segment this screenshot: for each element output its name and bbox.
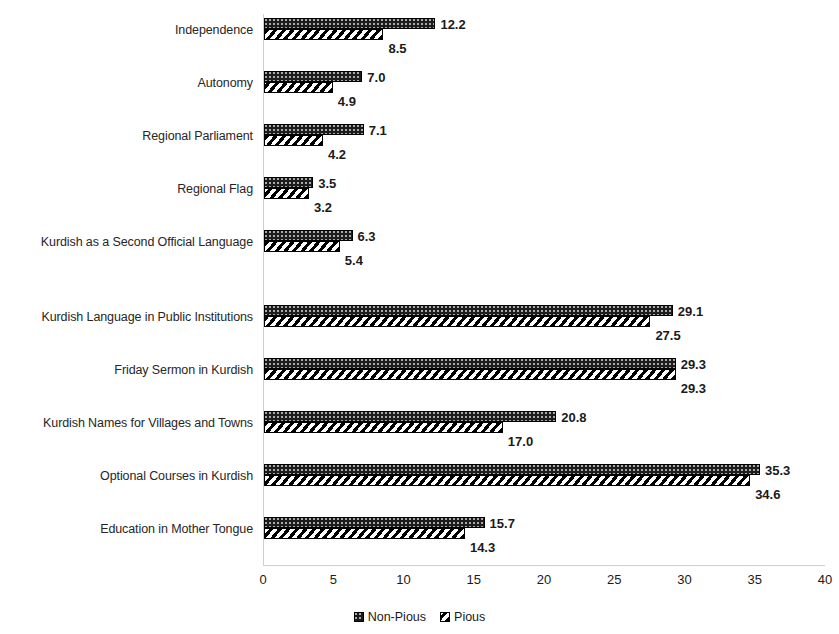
bar-group: 15.714.3	[264, 517, 485, 539]
bar-group: 7.04.9	[264, 71, 362, 93]
bar-value-label: 35.3	[765, 464, 790, 477]
bar-pious: 27.5	[264, 316, 650, 327]
x-tick-label: 15	[454, 572, 494, 587]
bar-row: Kurdish Names for Villages and Towns20.8…	[0, 411, 839, 435]
bar-pious: 3.2	[264, 188, 309, 199]
bar-non-pious: 7.0	[264, 71, 362, 82]
category-label: Autonomy	[3, 71, 253, 95]
bar-value-label: 3.5	[318, 177, 336, 190]
category-label: Optional Courses in Kurdish	[3, 464, 253, 488]
bar-group: 29.329.3	[264, 358, 676, 380]
category-label: Independence	[3, 18, 253, 42]
bar-group: 7.14.2	[264, 124, 364, 146]
bar-non-pious: 15.7	[264, 517, 485, 528]
bar-group: 3.53.2	[264, 177, 313, 199]
bar-pious: 8.5	[264, 29, 383, 40]
bar-group: 12.28.5	[264, 18, 435, 40]
diagonal-hatch-swatch	[440, 612, 450, 622]
bar-row: Regional Flag3.53.2	[0, 177, 839, 201]
bar-value-label: 29.3	[681, 382, 706, 395]
category-label: Kurdish as a Second Official Language	[3, 230, 253, 254]
bar-non-pious: 29.1	[264, 305, 673, 316]
bar-row: Education in Mother Tongue15.714.3	[0, 517, 839, 541]
legend-item[interactable]: Pious	[440, 610, 485, 624]
bar-value-label: 14.3	[470, 541, 495, 554]
bar-value-label: 12.2	[440, 18, 465, 31]
category-label: Regional Parliament	[3, 124, 253, 148]
bar-non-pious: 35.3	[264, 464, 760, 475]
bar-value-label: 29.3	[681, 358, 706, 371]
bar-value-label: 3.2	[314, 201, 332, 214]
bar-pious: 4.2	[264, 135, 323, 146]
plot-area: Independence12.28.5Autonomy7.04.9Regiona…	[0, 0, 839, 634]
bar-pious: 5.4	[264, 241, 340, 252]
bar-pious: 14.3	[264, 528, 465, 539]
bar-value-label: 7.0	[367, 71, 385, 84]
bar-value-label: 17.0	[508, 435, 533, 448]
bar-pious: 34.6	[264, 475, 750, 486]
bar-non-pious: 6.3	[264, 230, 353, 241]
x-tick-label: 0	[243, 572, 283, 587]
bar-non-pious: 29.3	[264, 358, 676, 369]
bar-value-label: 7.1	[369, 124, 387, 137]
legend-item[interactable]: Non-Pious	[354, 610, 426, 624]
bar-group: 35.334.6	[264, 464, 760, 486]
x-tick-label: 30	[665, 572, 705, 587]
x-axis-line	[263, 565, 825, 566]
category-label: Kurdish Names for Villages and Towns	[3, 411, 253, 435]
category-label: Friday Sermon in Kurdish	[3, 358, 253, 382]
category-label: Kurdish Language in Public Institutions	[3, 305, 253, 329]
bar-value-label: 4.9	[338, 95, 356, 108]
x-tick-label: 25	[594, 572, 634, 587]
bar-value-label: 5.4	[345, 254, 363, 267]
bar-value-label: 8.5	[388, 42, 406, 55]
bar-row: Regional Parliament7.14.2	[0, 124, 839, 148]
bar-row: Optional Courses in Kurdish35.334.6	[0, 464, 839, 488]
bar-group: 6.35.4	[264, 230, 353, 252]
bar-chart: Independence12.28.5Autonomy7.04.9Regiona…	[0, 0, 839, 634]
bar-non-pious: 12.2	[264, 18, 435, 29]
legend-label: Pious	[454, 610, 485, 624]
bar-row: Autonomy7.04.9	[0, 71, 839, 95]
bar-group: 20.817.0	[264, 411, 556, 433]
bar-value-label: 29.1	[678, 305, 703, 318]
bar-pious: 17.0	[264, 422, 503, 433]
bar-row: Kurdish Language in Public Institutions2…	[0, 305, 839, 329]
x-tick-label: 20	[524, 572, 564, 587]
bar-value-label: 20.8	[561, 411, 586, 424]
x-tick-label: 10	[384, 572, 424, 587]
category-label: Regional Flag	[3, 177, 253, 201]
bar-group: 29.127.5	[264, 305, 673, 327]
bar-pious: 4.9	[264, 82, 333, 93]
bar-value-label: 4.2	[328, 148, 346, 161]
bar-non-pious: 3.5	[264, 177, 313, 188]
legend-label: Non-Pious	[368, 610, 426, 624]
x-tick-label: 5	[313, 572, 353, 587]
x-tick-label: 40	[805, 572, 839, 587]
chart-legend: Non-PiousPious	[0, 610, 839, 624]
bar-non-pious: 20.8	[264, 411, 556, 422]
bar-value-label: 6.3	[358, 230, 376, 243]
bar-row: Kurdish as a Second Official Language6.3…	[0, 230, 839, 254]
dark-stipple-swatch	[354, 612, 364, 622]
bar-value-label: 34.6	[755, 488, 780, 501]
bar-pious: 29.3	[264, 369, 676, 380]
bar-row: Independence12.28.5	[0, 18, 839, 42]
bar-non-pious: 7.1	[264, 124, 364, 135]
x-tick-label: 35	[735, 572, 775, 587]
bar-value-label: 27.5	[655, 329, 680, 342]
bar-row: Friday Sermon in Kurdish29.329.3	[0, 358, 839, 382]
category-label: Education in Mother Tongue	[3, 517, 253, 541]
bar-value-label: 15.7	[490, 517, 515, 530]
